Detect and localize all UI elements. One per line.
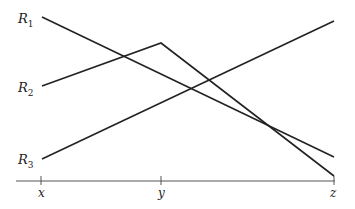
axis-label-y: y (157, 186, 165, 200)
line-r3 (42, 21, 334, 159)
line-r1 (42, 17, 334, 157)
label-r1: R1 (17, 11, 34, 29)
label-r3: R3 (17, 152, 34, 170)
diagram-canvas: R1 R2 R3 x y z (0, 0, 355, 209)
label-r2: R2 (17, 80, 34, 98)
axis-label-z: z (329, 186, 337, 200)
axis-label-x: x (38, 186, 45, 200)
line-r2 (42, 43, 334, 176)
